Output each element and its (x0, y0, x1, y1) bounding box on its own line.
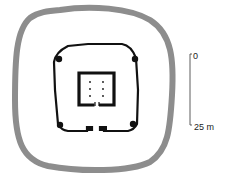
gate-block-east (101, 126, 107, 131)
column-dot (102, 88, 104, 90)
column-dot (102, 81, 104, 83)
column-dot (89, 95, 91, 97)
outer-enclosure-ring (15, 8, 173, 170)
inner-enclosure-wall (54, 44, 138, 131)
scale-bar-bottom-label: 25 m (194, 123, 214, 132)
column-dot (89, 88, 91, 90)
corner-tower-sw (57, 122, 63, 128)
central-building (79, 73, 114, 105)
corner-tower-nw (56, 56, 62, 62)
column-dot (102, 95, 104, 97)
scale-bar-top-label: 0 (193, 52, 198, 61)
column-dot (89, 81, 91, 83)
site-plan (0, 0, 234, 179)
corner-tower-ne (132, 56, 138, 62)
gate-block-west (86, 126, 92, 131)
corner-tower-se (130, 121, 136, 127)
scale-bar (190, 54, 192, 125)
